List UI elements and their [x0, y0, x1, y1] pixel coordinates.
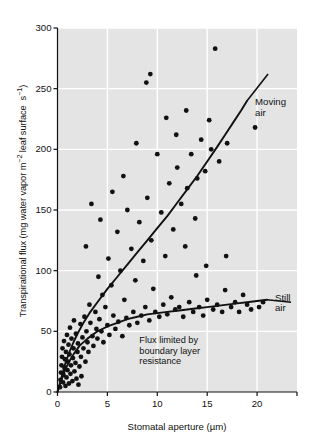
still-air-label: Still air	[275, 293, 290, 314]
data-point	[193, 216, 198, 221]
data-point	[205, 297, 210, 302]
x-tick-label: 5	[94, 398, 120, 409]
data-point	[177, 305, 182, 310]
data-point	[125, 208, 130, 213]
data-point	[86, 350, 91, 355]
data-point	[224, 254, 229, 259]
transpiration-flux-chart: Transpirational flux (mg water vapor m−2…	[0, 0, 312, 444]
data-point	[167, 181, 172, 186]
data-point	[74, 376, 79, 381]
data-point	[149, 238, 154, 243]
data-point	[191, 310, 196, 315]
data-point	[76, 382, 81, 387]
data-point	[88, 320, 93, 325]
data-point	[225, 141, 230, 146]
plot-canvas	[0, 0, 312, 444]
data-point	[58, 385, 63, 390]
data-point	[133, 278, 138, 283]
data-point	[135, 320, 140, 325]
data-point	[71, 346, 76, 351]
data-point	[183, 244, 188, 249]
data-point	[199, 137, 204, 142]
data-point	[159, 210, 164, 215]
x-axis-label: Stomatal aperture (µm)	[57, 421, 297, 432]
data-point	[148, 72, 153, 77]
data-point	[139, 313, 144, 318]
data-point	[144, 80, 149, 85]
data-point	[211, 307, 216, 312]
data-point	[153, 310, 158, 315]
data-point	[69, 336, 74, 341]
moving-air-label: Moving air	[255, 97, 286, 118]
y-tick-label: 0	[18, 387, 52, 397]
data-point	[64, 375, 69, 380]
data-point	[245, 302, 250, 307]
data-point	[189, 152, 194, 157]
data-point	[120, 334, 125, 339]
y-tick-label: 200	[18, 144, 52, 154]
data-point	[76, 341, 81, 346]
data-point	[215, 302, 220, 307]
data-point	[69, 363, 74, 368]
data-point	[109, 283, 114, 288]
data-point	[207, 118, 212, 123]
data-point	[220, 310, 225, 315]
data-point	[72, 318, 77, 323]
data-point	[87, 302, 92, 307]
data-point	[151, 286, 156, 291]
data-point	[204, 263, 209, 268]
data-point	[209, 147, 214, 152]
data-point	[101, 340, 106, 345]
data-point	[171, 227, 176, 232]
data-point	[99, 329, 104, 334]
data-point	[90, 334, 95, 339]
data-point	[184, 108, 189, 113]
data-point	[141, 259, 146, 264]
x-tick-label: 10	[144, 398, 170, 409]
x-tick-label: 20	[244, 398, 270, 409]
data-point	[233, 300, 238, 305]
data-point	[237, 310, 242, 315]
y-tick-label: 50	[18, 326, 52, 336]
data-point	[137, 220, 142, 225]
data-point	[79, 374, 84, 379]
data-point	[95, 336, 100, 341]
data-point	[96, 274, 101, 279]
data-point	[73, 360, 78, 365]
data-point	[165, 312, 170, 317]
data-point	[80, 335, 85, 340]
data-point	[122, 297, 127, 302]
data-point	[194, 273, 199, 278]
data-point	[72, 369, 77, 374]
data-point	[169, 295, 174, 300]
data-point	[66, 342, 71, 347]
data-point	[213, 46, 218, 51]
data-point	[201, 313, 206, 318]
data-point	[75, 350, 80, 355]
data-point	[82, 314, 87, 319]
data-point	[93, 310, 98, 315]
data-point	[67, 352, 72, 357]
y-tick-label: 150	[18, 205, 52, 215]
data-point	[78, 322, 83, 327]
data-point	[145, 195, 150, 200]
data-point	[103, 305, 108, 310]
x-tick-label: 15	[194, 398, 220, 409]
data-point	[164, 115, 169, 120]
x-tick-label: 0	[45, 398, 71, 409]
data-point	[107, 333, 112, 338]
data-point	[116, 319, 121, 324]
data-point	[241, 293, 246, 298]
data-point	[261, 300, 266, 305]
data-point	[60, 346, 65, 351]
data-point	[68, 371, 73, 376]
data-point	[203, 169, 208, 174]
data-point	[127, 323, 132, 328]
data-point	[70, 379, 75, 384]
data-point	[84, 244, 89, 249]
data-point	[77, 364, 82, 369]
data-point	[147, 318, 152, 323]
data-point	[115, 229, 120, 234]
data-point	[97, 317, 102, 322]
data-point	[253, 125, 258, 130]
